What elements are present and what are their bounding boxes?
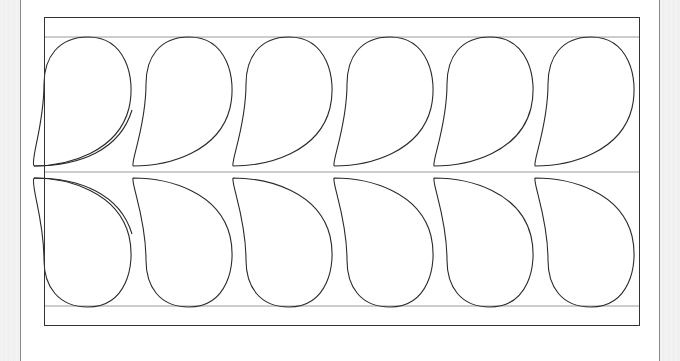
paisley-bottom-1-inner (34, 178, 132, 234)
paisley-top-1 (33, 37, 131, 166)
paisley-bottom-6 (535, 178, 634, 307)
paisley-top-5 (434, 37, 533, 166)
paisley-top-3 (233, 37, 332, 166)
paisley-row-bottom (33, 178, 634, 307)
paisley-top-2 (133, 37, 232, 166)
paisley-bottom-2 (133, 178, 232, 307)
paisley-bottom-5 (434, 178, 533, 307)
paisley-top-6 (535, 37, 634, 166)
paisley-row-top (33, 37, 634, 166)
paisley-top-1-inner (34, 110, 132, 166)
paisley-bottom-3 (233, 178, 332, 307)
paisley-bottom-4 (334, 178, 433, 307)
paisley-top-4 (334, 37, 433, 166)
paisley-border-pattern (0, 0, 680, 361)
paisley-bottom-1 (33, 178, 131, 307)
